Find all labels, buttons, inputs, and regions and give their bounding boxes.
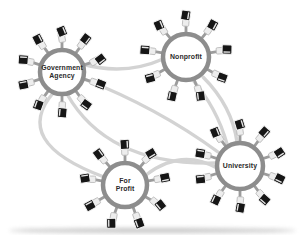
computer-icon — [16, 52, 36, 68]
monitor-icon — [56, 25, 68, 38]
monitor-icon — [107, 218, 116, 228]
hub-label-line: Nonprofit — [170, 53, 203, 61]
monitor-icon — [140, 45, 150, 55]
monitor-icon — [18, 55, 28, 65]
computer-icon — [153, 172, 170, 184]
computer-icon — [57, 102, 67, 118]
computer-icon — [191, 84, 207, 104]
computer-icon — [131, 211, 145, 229]
hub-university: University — [193, 118, 287, 213]
monitor-screen-line — [223, 51, 230, 53]
computer-icon — [17, 76, 36, 91]
computer-icon — [215, 43, 234, 57]
computer-icon — [268, 170, 287, 185]
hub-label-university: University — [223, 162, 257, 170]
computer-icon — [83, 196, 102, 212]
monitor-icon — [195, 174, 206, 184]
computer-icon — [120, 139, 130, 155]
monitor-icon — [166, 90, 177, 101]
computer-icon — [193, 170, 213, 186]
computer-icon — [267, 146, 287, 162]
monitor-screen-line — [108, 220, 110, 227]
computer-icon — [210, 67, 230, 85]
monitor-icon — [120, 139, 130, 149]
computer-icon — [208, 188, 227, 208]
monitor-icon — [180, 10, 191, 21]
computer-icon — [235, 197, 246, 214]
hub-for-profit: ForProfit — [78, 139, 171, 231]
hub-label-line: University — [223, 162, 257, 170]
monitor-icon — [79, 173, 90, 184]
computer-icon — [165, 84, 181, 103]
monitor-icon — [144, 72, 156, 83]
hub-label-line: Profit — [116, 185, 135, 192]
computer-icon — [139, 44, 157, 57]
monitor-icon — [222, 45, 232, 54]
hub-nonprofit: Nonprofit — [139, 10, 234, 104]
computer-icon — [103, 211, 120, 232]
computer-icon — [180, 10, 191, 27]
computer-icon — [89, 76, 107, 90]
organization-network-diagram: GovernmentAgencyNonprofitForProfitUniver… — [0, 0, 303, 235]
computer-icon — [147, 194, 168, 213]
network-diagram-canvas: GovernmentAgencyNonprofitForProfitUniver… — [0, 0, 303, 235]
monitor-icon — [18, 79, 29, 90]
hub-label-line: Government — [41, 64, 83, 71]
monitor-icon — [195, 91, 205, 102]
hub-label-line: For — [119, 177, 131, 184]
monitor-icon — [195, 148, 206, 159]
monitor-icon — [235, 202, 246, 213]
monitor-icon — [57, 107, 67, 118]
hub-government-agency: GovernmentAgency — [16, 25, 108, 118]
hub-label-nonprofit: Nonprofit — [170, 53, 203, 61]
computer-icon — [142, 67, 163, 85]
monitor-icon — [159, 172, 170, 183]
computer-icon — [56, 25, 68, 43]
hub-label-line: Agency — [49, 72, 75, 80]
